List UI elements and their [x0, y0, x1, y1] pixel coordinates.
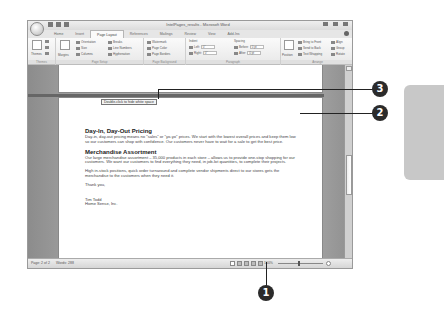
group-themes: Themes Themes [28, 38, 56, 65]
columns-button[interactable]: Columns [76, 52, 93, 56]
tab-add-ins[interactable]: Add-Ins [222, 30, 246, 38]
quick-access-toolbar [48, 22, 69, 27]
orientation-button[interactable]: Orientation [76, 40, 96, 44]
callout-1-line [266, 262, 267, 286]
minimize-button[interactable] [323, 22, 328, 26]
hyphenation-icon [108, 53, 112, 56]
tab-page-layout[interactable]: Page Layout [90, 30, 124, 38]
orientation-icon [76, 41, 80, 44]
word-window: IntelPages_results - Microsoft Word Home… [27, 20, 353, 269]
office-button[interactable] [30, 22, 44, 36]
watermark-button[interactable]: Watermark [147, 40, 167, 44]
tab-view[interactable]: View [202, 30, 222, 38]
size-icon [76, 47, 80, 50]
status-bar: Page: 2 of 2 Words: 288 100% [28, 258, 352, 268]
theme-colors-icon[interactable] [45, 40, 49, 43]
closing: Thank you, [85, 183, 296, 188]
zoom-in-icon[interactable] [326, 261, 331, 266]
position-button[interactable]: Position [282, 53, 293, 57]
save-icon[interactable] [48, 22, 53, 27]
group-arrange: Position Bring to Front Send to Back Tex… [281, 38, 353, 65]
size-button[interactable]: Size [76, 46, 87, 50]
tab-insert[interactable]: Insert [69, 30, 90, 38]
tab-review[interactable]: Review [179, 30, 202, 38]
page-borders-button[interactable]: Page Borders [147, 52, 170, 56]
help-icon[interactable] [344, 31, 349, 36]
group-icon [331, 47, 335, 50]
spacing-before-field[interactable]: 0 pt [250, 45, 264, 49]
redo-icon[interactable] [64, 22, 69, 27]
title-bar: IntelPages_results - Microsoft Word [28, 21, 352, 30]
document-workspace: Double-click to hide white space Day-In,… [28, 65, 352, 260]
breaks-button[interactable]: Breaks [108, 40, 122, 44]
group-page-background: Watermark Page Color Page Borders Page B… [144, 38, 186, 65]
print-layout-view-button[interactable] [230, 261, 235, 266]
document-page[interactable]: Day-In, Day-Out Pricing Day-in, day-out … [58, 97, 323, 262]
window-controls [323, 22, 348, 26]
page-color-icon [147, 47, 151, 50]
callout-2: 2 [372, 105, 388, 121]
tab-references[interactable]: References [124, 30, 154, 38]
tab-mailings[interactable]: Mailings [154, 30, 179, 38]
close-button[interactable] [343, 22, 348, 26]
section-body: Day-in, day-out pricing means no "sales"… [85, 135, 296, 145]
word-count[interactable]: Words: 288 [56, 261, 74, 265]
vertical-scrollbar[interactable] [344, 65, 352, 260]
page-count[interactable]: Page: 2 of 2 [31, 261, 50, 265]
callout-3: 3 [372, 81, 388, 97]
indent-right-field[interactable]: 0" [203, 51, 217, 55]
theme-fonts-icon[interactable] [45, 46, 49, 49]
undo-icon[interactable] [56, 22, 61, 27]
watermark-icon [147, 41, 151, 44]
margins-button[interactable]: Margins [58, 53, 69, 57]
send-to-back-icon [298, 47, 302, 50]
themes-button[interactable]: Themes [31, 52, 42, 56]
page-color-button[interactable]: Page Color [147, 46, 167, 50]
scroll-thumb[interactable] [346, 155, 352, 195]
group-label-page-setup: Page Setup [56, 60, 143, 64]
margins-icon[interactable] [60, 40, 70, 50]
indent-left-icon [189, 46, 193, 49]
zoom-slider-thumb[interactable] [298, 261, 300, 266]
position-icon[interactable] [284, 40, 294, 50]
bring-to-front-button[interactable]: Bring to Front [298, 40, 321, 44]
callout-2-line [300, 113, 376, 114]
columns-icon [76, 53, 80, 56]
spacing-after-field[interactable]: 0 pt [247, 51, 261, 55]
text-wrapping-button[interactable]: Text Wrapping [298, 52, 322, 56]
window-title: IntelPages_results - Microsoft Word [138, 22, 258, 27]
zoom-slider[interactable] [278, 263, 323, 264]
draft-view-button[interactable] [258, 261, 263, 266]
bring-to-front-icon [298, 41, 302, 44]
page-borders-icon [147, 53, 151, 56]
ribbon-tabs: Home Insert Page Layout References Maili… [28, 30, 352, 38]
web-layout-view-button[interactable] [244, 261, 249, 266]
view-buttons [230, 261, 263, 266]
spacing-label: Spacing [234, 39, 245, 43]
section-body: Our large merchandise assortment – 35,00… [85, 156, 296, 166]
signature-company: Home Sense, Inc. [85, 202, 296, 207]
callout-3-line [158, 89, 159, 99]
tab-home[interactable]: Home [48, 30, 69, 38]
align-button[interactable]: Align [331, 40, 343, 44]
group-label-arrange: Arrange [281, 60, 353, 64]
maximize-button[interactable] [333, 22, 338, 26]
group-button[interactable]: Group [331, 46, 344, 50]
full-screen-reading-view-button[interactable] [237, 261, 242, 266]
hyphenation-button[interactable]: Hyphenation [108, 52, 130, 56]
indent-left-field[interactable]: 0" [201, 45, 215, 49]
rotate-button[interactable]: Rotate [331, 52, 345, 56]
paragraph: High in-stock positions, quick order tur… [85, 169, 296, 179]
themes-icon[interactable] [32, 40, 42, 50]
breaks-icon [108, 41, 112, 44]
rotate-icon [331, 53, 335, 56]
outline-view-button[interactable] [251, 261, 256, 266]
spacing-after-icon [234, 52, 238, 55]
side-tab [404, 85, 444, 180]
section-heading: Merchandise Assortment [85, 149, 296, 155]
scroll-up-arrow-icon[interactable] [346, 66, 352, 71]
align-icon [331, 41, 335, 44]
theme-effects-icon[interactable] [45, 52, 49, 55]
line-numbers-button[interactable]: Line Numbers [108, 46, 132, 50]
send-to-back-button[interactable]: Send to Back [298, 46, 321, 50]
